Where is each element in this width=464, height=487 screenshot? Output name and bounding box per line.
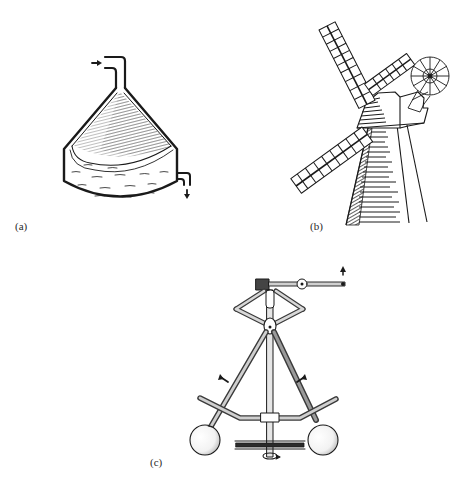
figure-svg — [0, 0, 464, 487]
panel-label-a: (a) — [15, 221, 27, 232]
panel-label-c: (c) — [150, 457, 162, 468]
governor-spindle — [267, 290, 273, 457]
panel-a-vessel — [64, 57, 190, 199]
outlet-arrow-icon — [184, 190, 190, 199]
sail-upper-left — [319, 22, 375, 109]
panel-label-b: (b) — [310, 221, 323, 232]
lever-up-arrow-icon — [340, 266, 346, 275]
panel-b-windmill — [291, 22, 449, 225]
spindle-collar — [266, 290, 274, 308]
outlet-pipe-inner — [177, 179, 184, 185]
fantail-icon — [408, 57, 449, 112]
inlet-arrow-icon — [92, 60, 102, 66]
flyball-right — [308, 425, 338, 455]
tower-line-right — [407, 125, 427, 222]
outward-arrow-left-icon — [218, 374, 228, 382]
sail-upper-right — [365, 53, 415, 95]
panel-c-governor — [190, 266, 346, 459]
inlet-pipe-inner — [105, 68, 116, 88]
tower-line-middle — [397, 125, 409, 223]
governor-lever — [256, 279, 345, 290]
figure-canvas: (a) (b) (c) — [0, 0, 464, 487]
flyball-left — [190, 425, 220, 455]
